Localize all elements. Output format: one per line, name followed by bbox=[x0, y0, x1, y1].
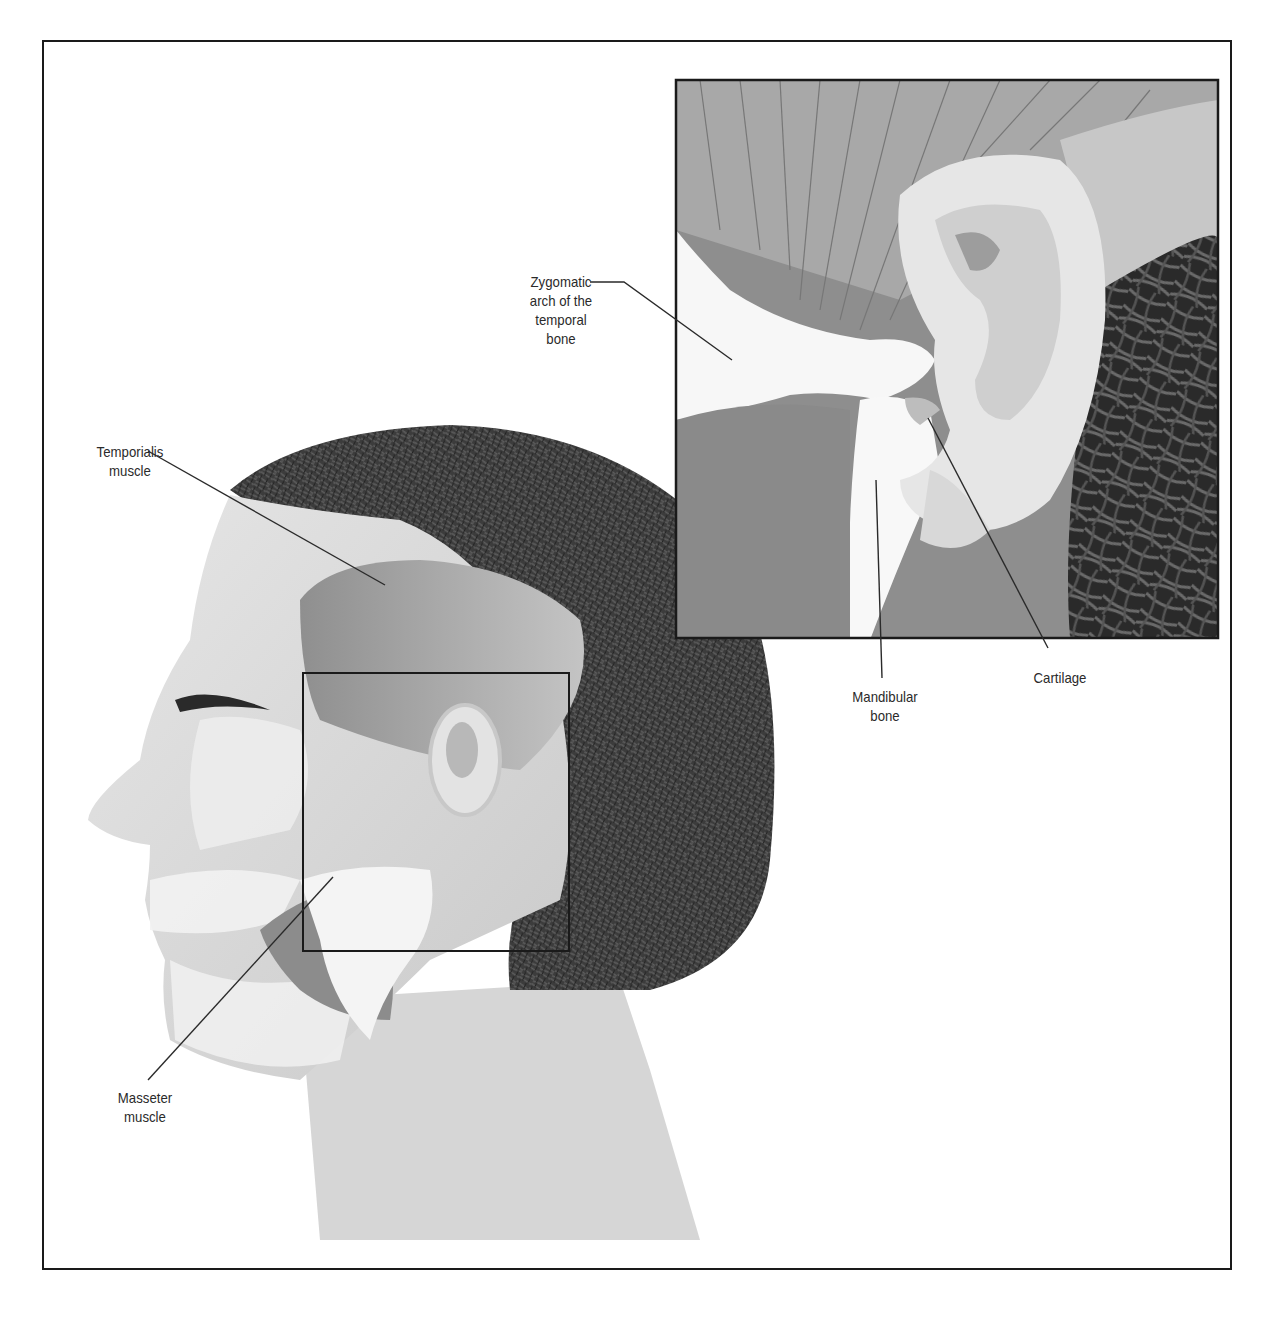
label-line: muscle bbox=[92, 1107, 198, 1126]
label-line: arch of the bbox=[513, 291, 610, 310]
label-line: Mandibular bbox=[837, 687, 934, 706]
label-mandibular-bone: Mandibular bone bbox=[837, 687, 934, 725]
label-line: Masseter bbox=[92, 1088, 198, 1107]
label-line: muscle bbox=[68, 461, 191, 480]
label-line: Cartilage bbox=[1016, 668, 1104, 687]
label-cartilage: Cartilage bbox=[1016, 668, 1104, 687]
label-temporialis-muscle: Temporialis muscle bbox=[68, 442, 191, 480]
label-zygomatic-arch: Zygomatic arch of the temporal bone bbox=[513, 272, 610, 348]
anatomy-illustration bbox=[0, 0, 1274, 1326]
label-masseter-muscle: Masseter muscle bbox=[92, 1088, 198, 1126]
label-line: bone bbox=[837, 706, 934, 725]
label-line: temporal bbox=[513, 310, 610, 329]
label-line: bone bbox=[513, 329, 610, 348]
inset-illustration bbox=[676, 80, 1218, 640]
label-line: Zygomatic bbox=[513, 272, 610, 291]
label-line: Temporialis bbox=[68, 442, 191, 461]
